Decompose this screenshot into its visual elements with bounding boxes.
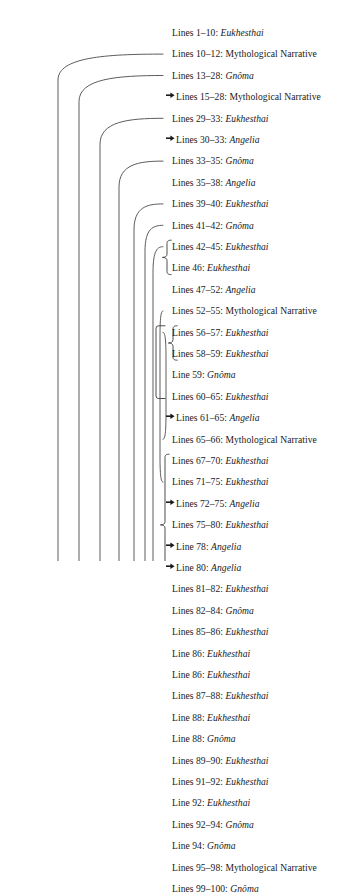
category-label: Gnôma	[225, 155, 254, 166]
line-range-label: Lines 41–42:	[172, 220, 225, 231]
line-label-row: Lines 58–59: Eukhesthai	[172, 343, 269, 364]
line-range-label: Line 92:	[172, 797, 207, 808]
category-label: Eukhesthai	[225, 241, 268, 252]
line-range-label: Lines 58–59:	[172, 348, 225, 359]
arrow-right-icon	[166, 562, 175, 570]
line-range-label: Lines 13–28:	[172, 70, 225, 81]
line-label-row: Lines 30–33: Angelia	[166, 129, 260, 150]
line-label-row: Lines 10–12: Mythological Narrative	[172, 43, 317, 64]
line-label-row: Lines 41–42: Gnôma	[172, 215, 254, 236]
line-label-row: Lines 99–100: Gnôma	[172, 878, 259, 896]
line-range-label: Line 78:	[176, 541, 211, 552]
category-label: Angelia	[229, 412, 259, 423]
line-range-label: Lines 35–38:	[172, 177, 225, 188]
line-label-row: Lines 52–55: Mythological Narrative	[172, 300, 317, 321]
line-label-row: Line 94: Gnôma	[172, 835, 236, 856]
line-label-row: Lines 61–65: Angelia	[166, 407, 260, 428]
line-range-label: Line 46:	[172, 262, 207, 273]
line-label-row: Line 86: Eukhesthai	[172, 664, 250, 685]
line-label-row: Lines 67–70: Eukhesthai	[172, 450, 269, 471]
line-range-label: Lines 42–45:	[172, 241, 225, 252]
line-range-label: Line 86:	[172, 648, 207, 659]
category-label: Eukhesthai	[225, 113, 268, 124]
line-label-row: Line 88: Eukhesthai	[172, 707, 250, 728]
line-label-row: Line 46: Eukhesthai	[172, 257, 250, 278]
arrow-right-icon	[166, 134, 175, 142]
line-range-label: Line 80:	[176, 562, 211, 573]
line-range-label: Lines 92–94:	[172, 819, 225, 830]
category-label: Eukhesthai	[225, 476, 268, 487]
line-label-row: Lines 92–94: Gnôma	[172, 814, 254, 835]
line-label-row: Lines 82–84: Gnôma	[172, 600, 254, 621]
category-label: Eukhesthai	[225, 348, 268, 359]
category-label: Angelia	[229, 498, 259, 509]
line-label-row: Line 92: Eukhesthai	[172, 792, 250, 813]
line-range-label: Lines 30–33:	[176, 134, 229, 145]
category-label: Gnôma	[225, 70, 254, 81]
line-range-label: Lines 85–86:	[172, 626, 225, 637]
category-label: Eukhesthai	[225, 583, 268, 594]
line-label-row: Lines 47–52: Angelia	[172, 279, 256, 300]
category-label: Eukhesthai	[225, 327, 268, 338]
line-label-row: Lines 81–82: Eukhesthai	[172, 578, 269, 599]
line-label-row: Line 78: Angelia	[166, 536, 241, 557]
category-label: Mythological Narrative	[225, 862, 316, 873]
line-label-row: Lines 13–28: Gnôma	[172, 65, 254, 86]
line-label-row: Lines 65–66: Mythological Narrative	[172, 429, 317, 450]
line-label-row: Line 59: Gnôma	[172, 364, 236, 385]
line-range-label: Lines 71–75:	[172, 476, 225, 487]
line-range-label: Lines 82–84:	[172, 605, 225, 616]
line-range-label: Lines 67–70:	[172, 455, 225, 466]
line-label-row: Lines 35–38: Angelia	[172, 172, 256, 193]
category-label: Angelia	[211, 562, 241, 573]
category-label: Eukhesthai	[225, 755, 268, 766]
category-label: Gnôma	[225, 819, 254, 830]
line-range-label: Lines 99–100:	[172, 883, 230, 894]
line-range-label: Lines 52–55:	[172, 305, 225, 316]
line-range-label: Lines 65–66:	[172, 434, 225, 445]
category-label: Angelia	[211, 541, 241, 552]
line-label-row: Line 86: Eukhesthai	[172, 643, 250, 664]
line-range-label: Lines 72–75:	[176, 498, 229, 509]
line-range-label: Lines 47–52:	[172, 284, 225, 295]
category-label: Eukhesthai	[207, 648, 250, 659]
arrow-right-icon	[166, 498, 175, 506]
category-label: Eukhesthai	[225, 455, 268, 466]
line-range-label: Lines 33–35:	[172, 155, 225, 166]
line-range-label: Lines 39–40:	[172, 198, 225, 209]
line-label-row: Lines 91–92: Eukhesthai	[172, 771, 269, 792]
category-label: Eukhesthai	[207, 669, 250, 680]
line-label-row: Lines 71–75: Eukhesthai	[172, 471, 269, 492]
category-label: Eukhesthai	[225, 391, 268, 402]
category-label: Eukhesthai	[221, 27, 264, 38]
line-range-label: Line 88:	[172, 712, 207, 723]
line-label-row: Lines 15–28: Mythological Narrative	[166, 86, 321, 107]
category-label: Gnôma	[207, 733, 236, 744]
line-range-label: Lines 87–88:	[172, 690, 225, 701]
line-label-row: Line 80: Angelia	[166, 557, 241, 578]
line-label-row: Lines 85–86: Eukhesthai	[172, 621, 269, 642]
line-label-row: Lines 33–35: Gnôma	[172, 150, 254, 171]
line-range-label: Lines 1–10:	[172, 27, 221, 38]
arrow-right-icon	[166, 91, 175, 99]
category-label: Eukhesthai	[225, 626, 268, 637]
category-label: Angelia	[225, 177, 255, 188]
line-label-row: Lines 56–57: Eukhesthai	[172, 322, 269, 343]
category-label: Mythological Narrative	[225, 434, 316, 445]
line-range-label: Lines 60–65:	[172, 391, 225, 402]
category-label: Eukhesthai	[207, 797, 250, 808]
line-range-label: Lines 95–98:	[172, 862, 225, 873]
line-range-label: Line 88:	[172, 733, 207, 744]
line-range-label: Lines 10–12:	[172, 48, 225, 59]
arrow-right-icon	[166, 541, 175, 549]
line-range-label: Lines 15–28:	[176, 91, 229, 102]
line-label-row: Lines 89–90: Eukhesthai	[172, 750, 269, 771]
line-label-row: Lines 39–40: Eukhesthai	[172, 193, 269, 214]
category-label: Mythological Narrative	[225, 305, 316, 316]
line-label-row: Lines 42–45: Eukhesthai	[172, 236, 269, 257]
category-label: Gnôma	[230, 883, 259, 894]
category-label: Eukhesthai	[207, 712, 250, 723]
line-range-label: Lines 61–65:	[176, 412, 229, 423]
line-label-row: Lines 75–80: Eukhesthai	[172, 514, 269, 535]
line-label-row: Lines 87–88: Eukhesthai	[172, 685, 269, 706]
